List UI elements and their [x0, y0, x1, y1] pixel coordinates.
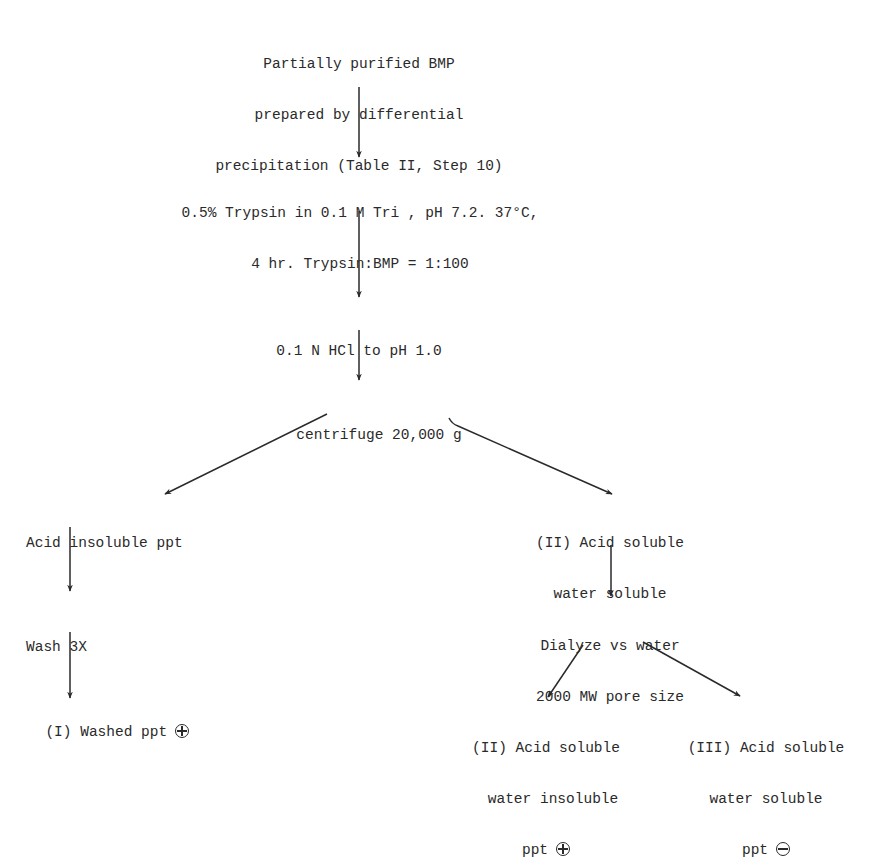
node-dialyze-line-1: Dialyze vs water	[510, 638, 710, 655]
node-water-soluble-line-3: ppt	[668, 842, 864, 859]
node-wash-line-1: Wash 3X	[26, 639, 87, 656]
node-water-insoluble-ppt: (II) Acid soluble water insoluble ppt	[456, 706, 636, 861]
node-water-insoluble-ppt-label: ppt	[522, 842, 548, 858]
node-water-soluble-line-1: (III) Acid soluble	[668, 740, 864, 757]
node-water-soluble-line-2: water soluble	[668, 791, 864, 808]
node-acid-insoluble-line-1: Acid insoluble ppt	[26, 535, 183, 552]
node-washed-ppt: (I) Washed ppt	[28, 707, 189, 741]
node-water-insoluble-line-1: (II) Acid soluble	[456, 740, 636, 757]
node-trypsin-line-1: 0.5% Trypsin in 0.1 M Tri , pH 7.2. 37°C…	[130, 205, 590, 222]
node-acid-soluble-line-1: (II) Acid soluble	[520, 535, 700, 552]
node-trypsin-line-2: 4 hr. Trypsin:BMP = 1:100	[130, 256, 590, 273]
node-hcl-line-1: 0.1 N HCl to pH 1.0	[259, 343, 459, 360]
node-water-soluble-ppt: (III) Acid soluble water soluble ppt	[668, 706, 864, 861]
node-washed-ppt-label: (I) Washed ppt	[45, 724, 167, 740]
node-acid-soluble-water-soluble: (II) Acid soluble water soluble	[520, 501, 700, 620]
node-wash: Wash 3X	[26, 605, 87, 673]
node-water-insoluble-line-3: ppt	[456, 842, 636, 859]
node-centrifuge-line-1: centrifuge 20,000 g	[279, 427, 479, 444]
node-start-line-2: prepared by differential	[209, 107, 509, 124]
negative-result-icon	[776, 842, 790, 856]
node-dialyze-line-2: 2000 MW pore size	[510, 689, 710, 706]
node-water-soluble-ppt-label: ppt	[742, 842, 768, 858]
positive-result-icon	[175, 724, 189, 738]
node-start-line-1: Partially purified BMP	[209, 56, 509, 73]
node-water-insoluble-line-2: water insoluble	[456, 791, 636, 808]
node-centrifuge: centrifuge 20,000 g	[279, 393, 479, 461]
node-start: Partially purified BMP prepared by diffe…	[209, 22, 509, 192]
node-hcl: 0.1 N HCl to pH 1.0	[259, 309, 459, 377]
node-trypsin: 0.5% Trypsin in 0.1 M Tri , pH 7.2. 37°C…	[130, 171, 590, 290]
positive-result-icon	[556, 842, 570, 856]
node-acid-insoluble: Acid insoluble ppt	[26, 501, 183, 569]
node-acid-soluble-line-2: water soluble	[520, 586, 700, 603]
